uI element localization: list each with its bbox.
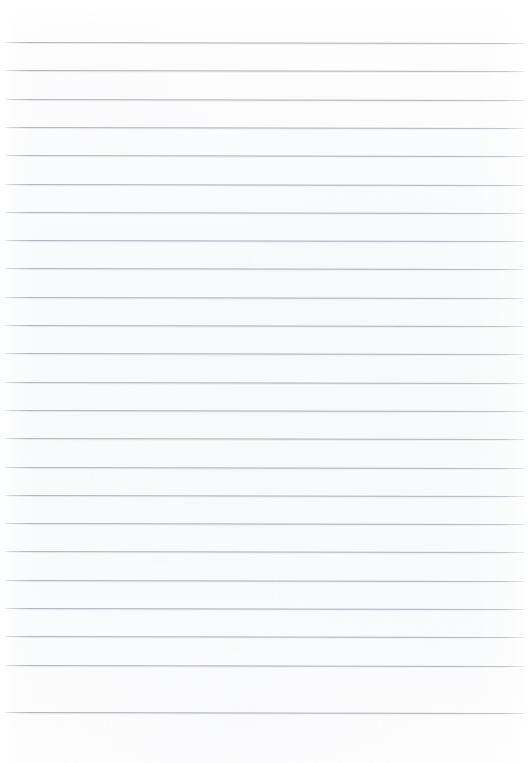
ruled-line <box>3 438 524 440</box>
ruled-line <box>3 608 524 610</box>
ruled-line <box>3 70 524 72</box>
ruled-line <box>3 410 524 412</box>
ruled-lines-layer <box>0 0 528 763</box>
ruled-line <box>3 580 524 582</box>
ruled-line <box>3 127 524 129</box>
ruled-line <box>3 155 524 157</box>
ruled-line <box>3 636 524 638</box>
ruled-line <box>3 495 524 497</box>
ruled-line <box>3 551 524 553</box>
ruled-line <box>3 297 524 299</box>
ruled-line <box>3 212 524 214</box>
ruled-line <box>3 268 524 270</box>
ruled-line <box>3 184 524 186</box>
ruled-line <box>3 467 524 469</box>
ruled-line <box>3 665 524 667</box>
ruled-line <box>3 523 524 525</box>
ruled-line <box>3 42 524 44</box>
notebook-page <box>0 0 528 763</box>
ruled-line <box>3 353 524 355</box>
ruled-line <box>3 99 524 101</box>
ruled-line <box>3 240 524 242</box>
ruled-line <box>3 382 524 384</box>
ruled-line <box>3 712 524 714</box>
ruled-line <box>3 325 524 327</box>
